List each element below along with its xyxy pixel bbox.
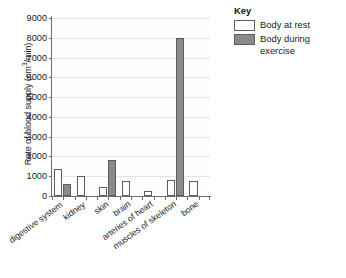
x-axis-label-kidney: kidney xyxy=(61,199,87,222)
legend-title: Key xyxy=(234,5,342,16)
x-axis-tick-mark xyxy=(187,196,188,200)
bar-digestive-system-rest[interactable] xyxy=(54,169,62,196)
x-axis-tick-mark xyxy=(52,196,53,200)
gridline xyxy=(52,38,210,39)
y-axis-tick-label: 6000 xyxy=(27,72,47,82)
x-axis-label-bone: bone xyxy=(179,199,200,218)
bar-muscles-of-skeleton-exercise[interactable] xyxy=(176,38,184,196)
y-axis-tick-mark xyxy=(49,176,53,177)
legend-label-body-during-exercise: Body during exercise xyxy=(260,33,342,56)
y-axis-tick-mark xyxy=(49,156,53,157)
x-axis-tick-mark xyxy=(86,196,87,200)
y-axis-tick-mark xyxy=(49,18,53,19)
y-axis-tick-mark xyxy=(49,77,53,78)
legend-swatch-body-during-exercise xyxy=(234,34,255,45)
x-axis-tick-mark xyxy=(199,196,200,200)
bar-skin-rest[interactable] xyxy=(99,187,107,196)
bar-digestive-system-exercise[interactable] xyxy=(63,184,71,196)
x-axis-tick-mark xyxy=(142,196,143,200)
plot-area: 0100020003000400050006000700080009000 xyxy=(52,18,210,196)
y-axis-tick-mark xyxy=(49,38,53,39)
y-axis-tick-label: 0 xyxy=(42,191,47,201)
x-axis-label-digestive-system: digestive system xyxy=(7,199,64,244)
y-axis-tick-mark xyxy=(49,97,53,98)
x-axis-tick-mark xyxy=(75,196,76,200)
gridline xyxy=(52,117,210,118)
legend-item-body-at-rest: Body at rest xyxy=(234,19,342,31)
y-axis-tick-label: 4000 xyxy=(27,112,47,122)
y-axis-tick-label: 8000 xyxy=(27,33,47,43)
x-axis-tick-mark xyxy=(97,196,98,200)
gridline xyxy=(52,77,210,78)
bar-brain-rest[interactable] xyxy=(122,181,130,196)
gridline xyxy=(52,18,210,19)
y-axis-tick-label: 1000 xyxy=(27,171,47,181)
y-axis-tick-label: 5000 xyxy=(27,92,47,102)
y-axis-title-superscript: 3 xyxy=(21,63,28,67)
x-axis-tick-mark xyxy=(154,196,155,200)
gridline xyxy=(52,97,210,98)
legend-item-body-during-exercise: Body during exercise xyxy=(234,33,342,56)
bar-kidney-rest[interactable] xyxy=(77,176,85,196)
x-axis-label-skin: skin xyxy=(92,199,110,216)
x-axis-tick-mark xyxy=(120,196,121,200)
bar-skin-exercise[interactable] xyxy=(108,160,116,196)
y-axis-tick-label: 3000 xyxy=(27,132,47,142)
bar-muscles-of-skeleton-rest[interactable] xyxy=(167,180,175,196)
bar-bone-rest[interactable] xyxy=(189,181,197,196)
bar-arteries-of-heart-rest[interactable] xyxy=(144,191,152,196)
x-axis-tick-mark xyxy=(63,196,64,200)
legend-label-body-at-rest: Body at rest xyxy=(260,19,310,31)
y-axis-tick-mark xyxy=(49,117,53,118)
legend-swatch-body-at-rest xyxy=(234,20,255,31)
y-axis-tick-mark xyxy=(49,137,53,138)
gridline xyxy=(52,156,210,157)
y-axis-tick-mark xyxy=(49,58,53,59)
x-axis-tick-mark xyxy=(176,196,177,200)
y-axis-tick-label: 9000 xyxy=(27,13,47,23)
bar-chart-figure: Rate of blood supply (cm3/min) 010002000… xyxy=(0,0,346,278)
y-axis-tick-label: 7000 xyxy=(27,53,47,63)
x-axis-tick-mark xyxy=(108,196,109,200)
x-axis-tick-mark xyxy=(165,196,166,200)
x-axis-tick-mark xyxy=(209,196,210,200)
gridline xyxy=(52,137,210,138)
x-axis-tick-mark xyxy=(131,196,132,200)
y-axis-tick-label: 2000 xyxy=(27,151,47,161)
legend: Key Body at rest Body during exercise xyxy=(234,5,342,58)
gridline xyxy=(52,58,210,59)
